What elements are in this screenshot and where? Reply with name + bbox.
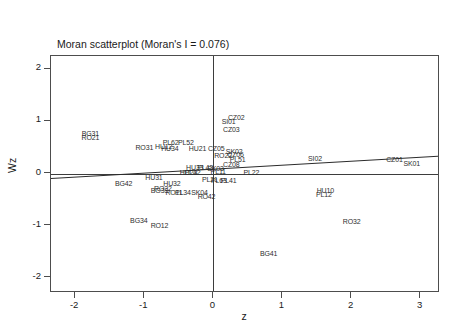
data-point-label: BG41 (260, 249, 277, 256)
x-axis-tick-label: 0 (210, 299, 215, 310)
moran-scatterplot: Moran scatterplot (Moran's I = 0.076) IR… (0, 0, 454, 329)
data-point-label: CZ03 (223, 125, 240, 132)
x-axis-tick-mark (143, 292, 144, 298)
data-point-label: HU31 (145, 173, 162, 180)
x-axis-tick-label: -1 (139, 299, 147, 310)
data-point-label: RO21 (82, 133, 100, 140)
data-point-label: PL34 (175, 189, 191, 196)
data-point-label: SI01 (222, 118, 236, 125)
page-title: Moran scatterplot (Moran's I = 0.076) (57, 38, 229, 51)
y-axis-tick-label: -2 (33, 270, 41, 281)
y-axis-tick-label: 2 (36, 61, 41, 72)
x-axis-tick-mark (212, 292, 213, 298)
data-point-label: PL42 (185, 169, 201, 176)
x-axis-tick-label: -2 (70, 299, 78, 310)
x-axis-tick-mark (350, 292, 351, 298)
data-point-label: CZ01 (386, 156, 403, 163)
data-point-label: RO42 (198, 192, 216, 199)
data-point-label: PL62 (163, 139, 179, 146)
x-axis-tick-mark (281, 292, 282, 298)
data-point-label: RO32 (343, 218, 361, 225)
data-point-label: SI02 (308, 155, 322, 162)
data-point-label: PL22 (244, 168, 260, 175)
y-axis-tick-label: -1 (33, 218, 41, 229)
y-axis: 210-1-2 (0, 55, 50, 292)
data-point-label: PL41 (221, 176, 237, 183)
data-point-label: RO31 (135, 144, 153, 151)
x-axis-tick-mark (74, 292, 75, 298)
y-axis-tick-label: 0 (36, 166, 41, 177)
data-point-label: SK01 (403, 159, 420, 166)
data-point-label: PL12 (316, 190, 332, 197)
plot-panel: BG31RO21RO31HU12HU34PL62PL52HU21CZ02SI01… (50, 55, 439, 292)
x-axis-tick-label: 2 (348, 299, 353, 310)
data-point-label: CZ08 (223, 160, 240, 167)
data-point-label: BG34 (130, 216, 147, 223)
data-point-label: RO12 (151, 221, 169, 228)
data-point-label: BG42 (115, 179, 132, 186)
x-axis: -2-10123 (50, 292, 439, 329)
x-axis-tick-label: 3 (417, 299, 422, 310)
data-point-label: HU21 (189, 145, 206, 152)
x-axis-tick-mark (419, 292, 420, 298)
x-axis-tick-label: 1 (279, 299, 284, 310)
data-point-label: PL11 (211, 168, 226, 175)
y-axis-tick-label: 1 (36, 113, 41, 124)
